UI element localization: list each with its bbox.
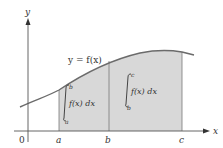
origin-label: 0 [19, 135, 25, 145]
y-axis-arrow-icon [26, 18, 31, 25]
integral-lower-limit: a [65, 118, 69, 125]
integral-lower-limit: b [127, 104, 131, 111]
point-b-label: b [105, 135, 111, 145]
y-axis-label: y [24, 7, 31, 17]
point-c-label: c [179, 135, 184, 145]
point-a-label: a [56, 135, 61, 145]
integrand: f(x) dx [68, 99, 95, 108]
integrand: f(x) dx [130, 87, 157, 96]
x-axis-label: x [213, 126, 218, 136]
x-axis-arrow-icon [203, 129, 210, 134]
integral-additivity-diagram: y x 0 a b c y = f(x) b a f(x) dx c b f(x… [0, 0, 223, 148]
integral-upper-limit: b [69, 83, 73, 90]
curve-label: y = f(x) [67, 55, 102, 65]
